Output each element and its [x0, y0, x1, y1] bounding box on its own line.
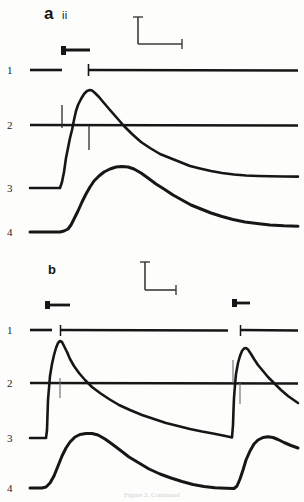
panel-b-plot	[0, 0, 304, 502]
figure-caption: Figure 2. Continued	[0, 491, 304, 499]
trace-label-b-1: 1	[7, 324, 13, 336]
trace-2-b	[30, 383, 298, 384]
trace-1-b	[30, 330, 298, 331]
trace-label-b-2: 2	[7, 377, 13, 389]
trace-label-b-3: 3	[7, 432, 13, 444]
figure-container: a ii 1 2 3 4 b	[0, 0, 304, 502]
trace-3-b	[30, 341, 298, 438]
trace-4-b	[30, 434, 298, 489]
stimulus-bar-b-2	[232, 299, 250, 307]
stimulus-bar-b-1	[45, 301, 70, 309]
scale-bar-b	[140, 262, 176, 295]
